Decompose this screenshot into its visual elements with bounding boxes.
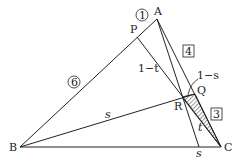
triangle-abc [20,19,221,147]
label-r: R [174,100,183,113]
ratio-pb: 6 [71,76,78,89]
label-1-minus-t: 1−t [138,62,159,75]
ratio-ap: 1 [139,9,146,22]
geometry-diagram: A B C P Q R 1 6 4 3 1−t 1−s s t s [0,0,237,167]
label-c: C [224,141,232,154]
label-q: Q [197,84,206,97]
label-p: P [130,23,138,36]
label-t-rc: t [198,121,203,134]
line-a-to-bc [157,19,199,147]
ratio-qc: 3 [213,108,220,121]
label-1-minus-s: 1−s [197,69,219,82]
label-s-br: s [105,108,111,121]
label-b: B [9,141,17,154]
label-a: A [153,5,163,18]
ratio-aq: 4 [185,45,192,58]
label-s-base: s [196,147,202,160]
